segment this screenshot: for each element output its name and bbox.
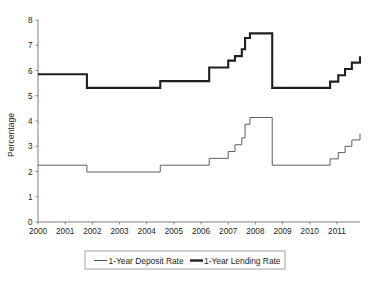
y-tick-label: 8 — [28, 16, 33, 25]
x-tick-label: 2005 — [165, 227, 184, 236]
x-tick-label: 2001 — [56, 227, 75, 236]
x-axis: 2000200120022003200420052006200720082009… — [29, 222, 360, 236]
y-tick-label: 2 — [28, 168, 33, 177]
y-axis-title-group: Percentage — [6, 113, 16, 157]
x-tick-label: 2007 — [219, 227, 238, 236]
y-tick-label: 6 — [28, 67, 33, 76]
data-series-group — [38, 33, 360, 172]
x-tick-label: 2010 — [301, 227, 320, 236]
y-tick-label: 0 — [28, 218, 33, 227]
legend-label-lending: 1-Year Lending Rate — [204, 256, 281, 266]
x-tick-label: 2008 — [246, 227, 265, 236]
legend-label-deposit: 1-Year Deposit Rate — [109, 256, 184, 266]
y-tick-label: 5 — [28, 92, 33, 101]
series-line-lending-rate — [38, 33, 360, 88]
x-tick-label: 2000 — [29, 227, 48, 236]
x-tick-label: 2009 — [273, 227, 292, 236]
x-tick-labels: 2000200120022003200420052006200720082009… — [29, 227, 346, 236]
x-tick-label: 2003 — [110, 227, 129, 236]
y-tick-labels: 012345678 — [28, 16, 33, 227]
x-tick-label: 2004 — [138, 227, 157, 236]
y-tick-label: 4 — [28, 117, 33, 126]
chart-container: Percentage 012345678 2000200120022003200… — [0, 0, 369, 283]
x-tick-label: 2006 — [192, 227, 211, 236]
chart-legend: 1-Year Deposit Rate 1-Year Lending Rate — [85, 251, 285, 269]
series-line-deposit-rate — [38, 117, 360, 172]
rate-line-chart: Percentage 012345678 2000200120022003200… — [0, 0, 369, 283]
y-tick-label: 1 — [28, 193, 33, 202]
y-axis-title: Percentage — [6, 113, 16, 157]
y-axis: 012345678 — [28, 16, 38, 227]
x-tick-label: 2002 — [83, 227, 102, 236]
y-tick-label: 3 — [28, 142, 33, 151]
y-tick-label: 7 — [28, 41, 33, 50]
x-tick-label: 2011 — [328, 227, 346, 236]
